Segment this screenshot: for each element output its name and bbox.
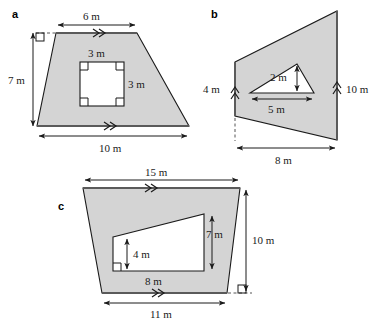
figure-a-right-angle-marker: [36, 33, 44, 41]
figure-c-hole-base-label: 8 m: [145, 275, 162, 287]
figure-a-square-hole: [80, 62, 124, 106]
figure-c-bottom-label: 11 m: [150, 308, 172, 320]
figure-c-right-angle-marker: [238, 285, 246, 293]
figure-a: a 7 m 6 m 10 m 3 m 3 m: [8, 8, 189, 154]
figure-a-height-label: 7 m: [8, 74, 25, 86]
figure-c-top-label: 15 m: [145, 166, 168, 178]
figure-b-base-label: 8 m: [275, 154, 292, 166]
figure-c-height-label: 10 m: [252, 234, 275, 246]
figure-b: b 2 m 5 m 8 m 4 m 10 m: [203, 8, 369, 166]
figure-a-top-label: 6 m: [83, 10, 100, 22]
figure-b-triangle-height-label: 2 m: [270, 71, 287, 83]
figure-a-label: a: [12, 8, 19, 20]
figure-c-hole-right-label: 7 m: [206, 228, 223, 240]
figure-c: c 4 m 7 m 8 m 15 m 10 m 11 m: [58, 166, 275, 320]
figure-a-bottom-label: 10 m: [99, 142, 122, 154]
figure-b-left-label: 4 m: [203, 83, 220, 95]
figure-c-hole-left-label: 4 m: [133, 248, 150, 260]
figure-a-hole-top-label: 3 m: [88, 47, 105, 59]
figure-b-right-label: 10 m: [346, 83, 369, 95]
figure-b-label: b: [211, 8, 218, 20]
composite-shapes-diagram: a 7 m 6 m 10 m 3 m 3 m: [0, 0, 371, 322]
figure-a-hole-side-label: 3 m: [128, 78, 145, 90]
figure-b-triangle-base-label: 5 m: [268, 103, 285, 115]
figure-c-label: c: [58, 200, 64, 212]
figure-root: a 7 m 6 m 10 m 3 m 3 m: [0, 0, 371, 322]
